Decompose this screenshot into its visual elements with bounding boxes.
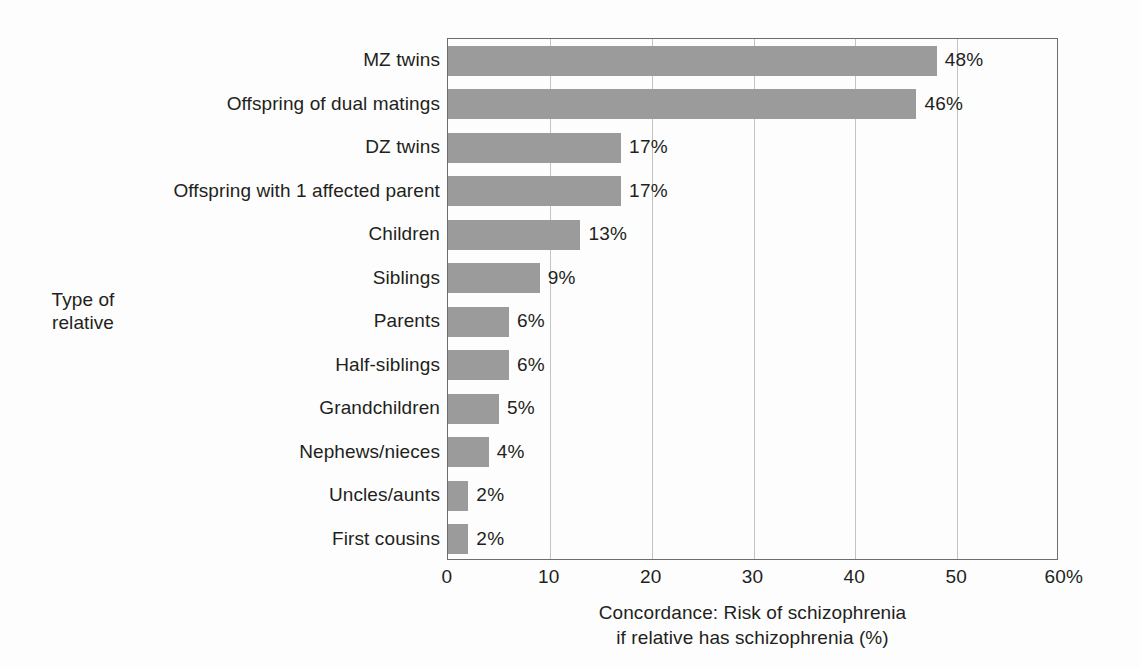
bar-value-label: 2%	[476, 524, 504, 554]
bar-value-label: 5%	[507, 393, 535, 423]
bar-row: 46%	[448, 83, 1059, 127]
x-tick-label-60: 60%	[1044, 566, 1083, 588]
bar-row: 2%	[448, 518, 1059, 562]
bar-row: 17%	[448, 126, 1059, 170]
bar-row: 6%	[448, 300, 1059, 344]
bar	[448, 524, 468, 554]
category-label: Siblings	[150, 256, 440, 300]
plot-area: 48%46%17%17%13%9%6%6%5%4%2%2%	[447, 38, 1058, 560]
schizophrenia-concordance-bar-chart: Type of relative MZ twinsOffspring of du…	[0, 0, 1140, 667]
x-axis-tick-labels: 0102030405060%	[447, 566, 1058, 592]
bar-row: 48%	[448, 39, 1059, 83]
bar-value-label: 48%	[945, 45, 984, 75]
bar-value-label: 2%	[476, 480, 504, 510]
y-axis-title: Type of relative	[8, 288, 158, 334]
bar	[448, 307, 509, 337]
bar-row: 5%	[448, 387, 1059, 431]
category-label: Nephews/nieces	[150, 430, 440, 474]
x-tick-label-30: 30	[742, 566, 764, 588]
category-label: Grandchildren	[150, 386, 440, 430]
y-axis-title-line-1: Type of	[8, 288, 158, 311]
bar-row: 4%	[448, 431, 1059, 475]
bar-value-label: 6%	[517, 306, 545, 336]
bar-row: 6%	[448, 344, 1059, 388]
bar	[448, 263, 540, 293]
category-label: MZ twins	[150, 38, 440, 82]
category-label: Parents	[150, 299, 440, 343]
bar-value-label: 17%	[629, 176, 668, 206]
bar-value-label: 13%	[588, 219, 627, 249]
category-label: First cousins	[150, 517, 440, 561]
x-axis-title-line-2: if relative has schizophrenia (%)	[447, 625, 1058, 650]
bar-row: 13%	[448, 213, 1059, 257]
x-tick-label-50: 50	[945, 566, 967, 588]
bar	[448, 437, 489, 467]
category-label: Offspring with 1 affected parent	[150, 169, 440, 213]
category-label: Half-siblings	[150, 343, 440, 387]
bar	[448, 46, 937, 76]
bar-rows: 48%46%17%17%13%9%6%6%5%4%2%2%	[448, 39, 1059, 561]
bar	[448, 350, 509, 380]
category-label: DZ twins	[150, 125, 440, 169]
bar-value-label: 4%	[497, 437, 525, 467]
bar	[448, 133, 621, 163]
x-tick-label-20: 20	[640, 566, 662, 588]
category-label: Children	[150, 212, 440, 256]
bar-row: 17%	[448, 170, 1059, 214]
x-tick-label-40: 40	[844, 566, 866, 588]
bar	[448, 176, 621, 206]
x-axis-title-line-1: Concordance: Risk of schizophrenia	[447, 600, 1058, 625]
bar-value-label: 46%	[924, 89, 963, 119]
bar-value-label: 17%	[629, 132, 668, 162]
y-axis-title-line-2: relative	[8, 311, 158, 334]
bar	[448, 220, 580, 250]
bar-row: 2%	[448, 474, 1059, 518]
bar-value-label: 6%	[517, 350, 545, 380]
bar	[448, 481, 468, 511]
category-label-column: MZ twinsOffspring of dual matingsDZ twin…	[150, 38, 440, 560]
bar-value-label: 9%	[548, 263, 576, 293]
x-tick-label-0: 0	[442, 566, 453, 588]
x-tick-label-10: 10	[538, 566, 560, 588]
x-axis-title: Concordance: Risk of schizophrenia if re…	[447, 600, 1058, 650]
category-label: Uncles/aunts	[150, 473, 440, 517]
bar	[448, 394, 499, 424]
bar-row: 9%	[448, 257, 1059, 301]
bar	[448, 89, 916, 119]
category-label: Offspring of dual matings	[150, 82, 440, 126]
